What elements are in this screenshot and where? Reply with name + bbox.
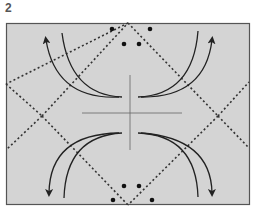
reference-dot: [110, 27, 115, 32]
origami-diagram: [0, 0, 255, 213]
reference-dot: [148, 27, 153, 32]
reference-dot: [122, 42, 127, 47]
paper-sheet: [7, 24, 250, 205]
reference-dot: [150, 198, 155, 203]
reference-dot: [111, 198, 116, 203]
reference-dot: [122, 184, 127, 189]
reference-dot: [137, 184, 142, 189]
reference-dot: [137, 42, 142, 47]
